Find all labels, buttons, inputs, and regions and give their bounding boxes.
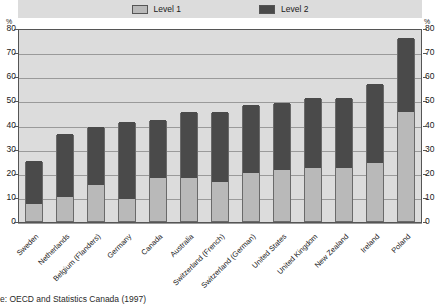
bar-segment-level-1 — [119, 199, 135, 221]
stacked-bar — [149, 121, 167, 222]
bar-column — [397, 29, 415, 222]
stacked-bar — [118, 123, 136, 222]
stacked-bar-chart: Level 1 Level 2 % % 01020304050607080 01… — [0, 0, 440, 306]
bar-column — [242, 29, 260, 222]
stacked-bar — [366, 85, 384, 223]
legend-label-level-1: Level 1 — [154, 5, 181, 14]
stacked-bar — [242, 106, 260, 222]
source-note: e: OECD and Statistics Canada (1997) — [0, 294, 146, 304]
y-tick-mark-right — [423, 198, 427, 199]
bar-segment-level-1 — [212, 182, 228, 221]
bar-segment-level-2 — [119, 122, 135, 199]
bar-segment-level-1 — [398, 112, 414, 221]
bar-segment-level-2 — [150, 120, 166, 178]
y-tick-label-right: 10 — [425, 193, 440, 202]
bar-column — [87, 29, 105, 222]
bar-column — [366, 29, 384, 222]
chart-legend: Level 1 Level 2 — [18, 0, 422, 18]
bar-column — [56, 29, 74, 222]
bar-segment-level-1 — [181, 178, 197, 221]
y-tick-label-right: 80 — [425, 24, 440, 33]
bar-segment-level-1 — [305, 168, 321, 221]
x-axis-label: Sweden — [14, 232, 40, 258]
bar-segment-level-1 — [88, 185, 104, 221]
bar-column — [304, 29, 322, 222]
bar-segment-level-2 — [398, 38, 414, 113]
stacked-bar — [304, 99, 322, 222]
bar-segment-level-2 — [57, 134, 73, 197]
bar-segment-level-2 — [88, 127, 104, 185]
bar-segment-level-2 — [181, 112, 197, 177]
y-tick-mark-right — [423, 29, 427, 30]
bar-column — [335, 29, 353, 222]
y-tick-mark-right — [423, 126, 427, 127]
y-tick-label-right: 30 — [425, 145, 440, 154]
y-tick-label-right: 60 — [425, 72, 440, 81]
bar-segment-level-2 — [243, 105, 259, 173]
bar-segment-level-1 — [243, 173, 259, 221]
y-tick-mark-right — [423, 77, 427, 78]
stacked-bar — [180, 113, 198, 222]
stacked-bar — [56, 135, 74, 222]
stacked-bar — [87, 128, 105, 222]
stacked-bar — [335, 99, 353, 222]
bar-column — [118, 29, 136, 222]
x-axis-label-wrap: Poland — [406, 225, 429, 243]
y-tick-mark-right — [423, 53, 427, 54]
bar-column — [149, 29, 167, 222]
x-axis-label-wrap: Ireland — [375, 225, 398, 243]
stacked-bar — [397, 39, 415, 222]
bar-series-group — [18, 29, 422, 222]
legend-item-level-1: Level 1 — [132, 5, 181, 14]
bar-segment-level-1 — [150, 178, 166, 221]
y-tick-label-right: 20 — [425, 169, 440, 178]
stacked-bar — [211, 113, 229, 222]
legend-label-level-2: Level 2 — [281, 5, 308, 14]
bar-segment-level-2 — [367, 84, 383, 164]
legend-swatch-level-2-icon — [259, 5, 275, 14]
bar-segment-level-2 — [212, 112, 228, 182]
y-tick-label-right: 70 — [425, 48, 440, 57]
stacked-bar — [273, 104, 291, 222]
bar-segment-level-2 — [26, 161, 42, 204]
legend-item-level-2: Level 2 — [259, 5, 308, 14]
legend-swatch-level-1-icon — [132, 5, 148, 14]
bar-segment-level-1 — [274, 170, 290, 221]
bar-column — [180, 29, 198, 222]
stacked-bar — [25, 162, 43, 222]
bar-segment-level-2 — [274, 103, 290, 171]
bar-segment-level-1 — [367, 163, 383, 221]
y-tick-label-right: 50 — [425, 96, 440, 105]
bar-segment-level-1 — [26, 204, 42, 221]
x-axis-labels: SwedenNetherlandsBelgium (Flanders)Germa… — [0, 223, 440, 289]
bar-column — [25, 29, 43, 222]
y-tick-mark-right — [423, 174, 427, 175]
y-tick-label-right: 40 — [425, 121, 440, 130]
y-tick-mark-right — [423, 101, 427, 102]
bar-column — [273, 29, 291, 222]
bar-column — [211, 29, 229, 222]
y-tick-mark-right — [423, 150, 427, 151]
bar-segment-level-1 — [336, 168, 352, 221]
bar-segment-level-2 — [305, 98, 321, 168]
bar-segment-level-2 — [336, 98, 352, 168]
bar-segment-level-1 — [57, 197, 73, 221]
